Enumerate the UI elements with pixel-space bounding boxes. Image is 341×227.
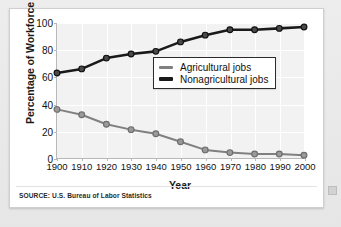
x-axis-tick-label: 1930 (121, 161, 142, 172)
legend-item-agricultural: Agricultural jobs (159, 61, 268, 73)
x-axis-tick-mark (131, 158, 132, 161)
x-axis-tick-label: 1900 (46, 161, 67, 172)
data-point (128, 127, 134, 133)
x-axis-tick-mark (181, 158, 182, 161)
data-point (79, 66, 85, 72)
legend-swatch-nonagricultural-icon (159, 77, 173, 81)
data-point (227, 27, 233, 33)
gridline-vertical (304, 23, 305, 158)
legend-label-nonagricultural: Nonagricultural jobs (180, 74, 268, 85)
page-background: Percentage of Workforce 0204060801001900… (0, 0, 341, 227)
x-axis-tick-label: 1910 (71, 161, 92, 172)
y-axis-tick-label: 100 (36, 18, 53, 29)
series-line-agricultural (57, 109, 304, 155)
data-point (202, 147, 208, 153)
data-point (54, 70, 60, 76)
x-axis-tick-mark (57, 158, 58, 161)
x-axis-tick-mark (156, 158, 157, 161)
data-point (54, 107, 60, 113)
x-axis-tick-label: 1980 (245, 161, 266, 172)
data-point (227, 150, 233, 156)
chart-figure: Percentage of Workforce 0204060801001900… (10, 9, 323, 207)
x-axis-tick-label: 1920 (96, 161, 117, 172)
card-divider (16, 186, 317, 187)
page-edge-artifact (328, 186, 337, 195)
x-axis-tick-mark (82, 158, 83, 161)
x-axis-tick-label: 1950 (170, 161, 191, 172)
plot-area: 0204060801001900191019201930194019501960… (56, 23, 304, 159)
data-point (178, 139, 184, 145)
x-axis-tick-label: 1960 (195, 161, 216, 172)
x-axis-tick-mark (107, 158, 108, 161)
data-point (128, 51, 134, 57)
y-axis-tick-label: 20 (42, 126, 53, 137)
data-point (153, 131, 159, 137)
data-point (276, 151, 282, 157)
data-point (104, 121, 110, 127)
data-point (301, 152, 307, 158)
x-axis-tick-label: 1970 (220, 161, 241, 172)
data-point (153, 48, 159, 54)
data-point (178, 39, 184, 45)
data-point (276, 26, 282, 32)
figure-card: Percentage of Workforce 0204060801001900… (9, 8, 324, 208)
x-axis-tick-label: 2000 (294, 161, 315, 172)
chart-series-layer (57, 23, 304, 158)
data-point (202, 32, 208, 38)
legend-swatch-agricultural-icon (159, 66, 173, 69)
data-point (301, 24, 307, 30)
data-point (252, 27, 258, 33)
x-axis-tick-label: 1990 (270, 161, 291, 172)
chart-legend: Agricultural jobs Nonagricultural jobs (153, 57, 276, 89)
y-axis-title: Percentage of Workforce (24, 0, 36, 129)
y-axis-tick-label: 80 (42, 45, 53, 56)
legend-label-agricultural: Agricultural jobs (180, 62, 251, 73)
x-axis-tick-label: 1940 (146, 161, 167, 172)
data-point (252, 151, 258, 157)
x-axis-tick-mark (231, 158, 232, 161)
x-axis-tick-mark (255, 158, 256, 161)
source-note: SOURCE: U.S. Bureau of Labor Statistics (19, 192, 152, 199)
x-axis-tick-mark (280, 158, 281, 161)
x-axis-title: Year (56, 179, 304, 191)
x-axis-tick-mark (206, 158, 207, 161)
y-axis-tick-label: 40 (42, 99, 53, 110)
data-point (104, 55, 110, 61)
data-point (79, 112, 85, 118)
y-axis-tick-label: 60 (42, 72, 53, 83)
legend-item-nonagricultural: Nonagricultural jobs (159, 73, 268, 85)
